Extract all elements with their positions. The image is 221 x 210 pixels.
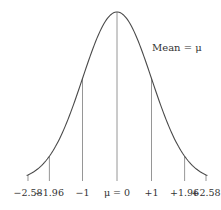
x-tick-label: +1 <box>144 187 158 198</box>
x-tick-label: −1 <box>75 187 89 198</box>
x-tick-label: −1.96 <box>35 187 64 198</box>
x-tick-label: μ = 0 <box>104 187 130 198</box>
x-tick-label: +2.58 <box>191 187 220 198</box>
x-axis-tick-labels: −2.58−1.96−1μ = 0+1+1.96+2.58 <box>13 187 220 198</box>
normal-distribution-chart: −2.58−1.96−1μ = 0+1+1.96+2.58 Mean = μ <box>0 0 221 210</box>
z-score-lines <box>28 12 206 181</box>
mean-annotation: Mean = μ <box>152 42 202 53</box>
